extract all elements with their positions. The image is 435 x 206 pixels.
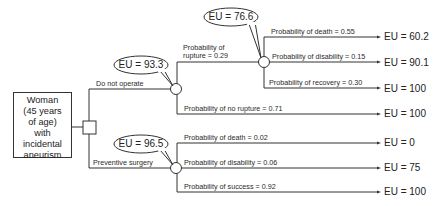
terminal-eu-no-rupture: EU = 100 [384,108,426,119]
eu-value-rupture: EU = 76.6 [208,11,254,22]
terminal-eu-rupture-death: EU = 60.2 [384,31,429,42]
decision-label-preventive-surgery: Preventive surgery [93,159,153,167]
root-line: of age) [14,117,71,128]
root-line: aneurism [14,150,71,161]
root-line: Woman [14,95,71,106]
root-patient-box: Woman (45 years of age) with incidental … [13,92,72,158]
terminal-eu-rupture-disability: EU = 90.1 [384,57,429,68]
outcome-label-rupture-disability: Probability of disability = 0.15 [272,53,365,61]
branch-label-line: rupture = 0.29 [183,52,228,60]
root-line: with [14,128,71,139]
eu-value-do-not-operate: EU = 93.3 [118,59,164,70]
outcome-label-surgery-success: Probability of success = 0.92 [184,183,276,191]
root-line: incidental [14,139,71,150]
decision-node-square [83,121,96,134]
terminal-eu-surgery-disability: EU = 75 [384,162,420,173]
outcome-label-surgery-disability: Probability of disability = 0.06 [184,159,277,167]
outcome-label-surgery-death: Probability of death = 0.02 [184,134,268,142]
outcome-label-rupture-death: Probability of death = 0.55 [271,28,355,36]
branch-label-no-rupture: Probability of no rupture = 0.71 [184,105,283,113]
terminal-eu-surgery-death: EU = 0 [384,137,415,148]
terminal-eu-surgery-success: EU = 100 [384,186,426,197]
root-line: (45 years [14,106,71,117]
eu-value-surgery: EU = 96.5 [118,138,164,149]
chance-node-rupture [259,57,270,68]
outcome-label-rupture-recovery: Probability of recovery = 0.30 [269,79,362,87]
terminal-eu-rupture-recovery: EU = 100 [384,83,426,94]
branch-label-rupture: Probability of rupture = 0.29 [183,44,228,61]
decision-label-do-not-operate: Do not operate [96,80,144,88]
